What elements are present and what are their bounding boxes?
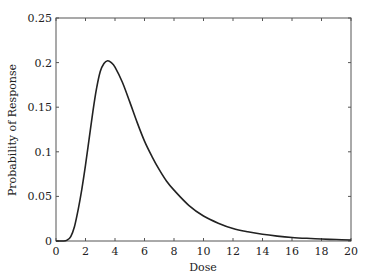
y-tick-label: 0.05: [28, 190, 53, 203]
x-tick-label: 10: [197, 245, 211, 258]
y-axis-label: Probability of Response: [6, 64, 19, 196]
x-tick-label: 4: [112, 245, 119, 258]
ticks: [56, 18, 351, 241]
y-tick-label: 0: [45, 235, 52, 248]
x-tick-label: 0: [53, 245, 60, 258]
y-tick-label: 0.1: [35, 146, 53, 159]
x-tick-label: 20: [344, 245, 358, 258]
plot-frame: [56, 18, 351, 241]
x-tick-label: 18: [315, 245, 329, 258]
x-tick-label: 8: [171, 245, 178, 258]
x-tick-label: 14: [256, 245, 270, 258]
x-axis-label: Dose: [189, 261, 217, 274]
x-tick-label: 16: [285, 245, 299, 258]
response-curve: [56, 61, 351, 241]
y-tick-label: 0.25: [28, 12, 53, 25]
x-tick-label: 12: [226, 245, 240, 258]
x-tick-label: 2: [82, 245, 89, 258]
tick-labels: 0246810121416182000.050.10.150.20.25: [28, 12, 359, 258]
y-tick-label: 0.15: [28, 101, 53, 114]
chart: 0246810121416182000.050.10.150.20.25 Dos…: [0, 0, 371, 280]
y-tick-label: 0.2: [35, 57, 53, 70]
axes: [56, 18, 351, 241]
x-tick-label: 6: [141, 245, 148, 258]
